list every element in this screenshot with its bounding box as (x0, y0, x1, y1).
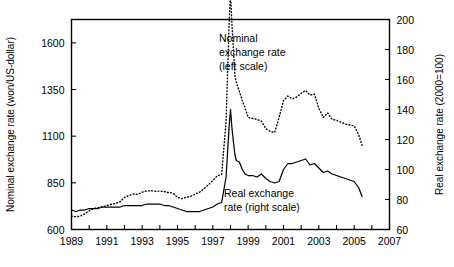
nominal-annotation-line2: exchange rate (219, 46, 286, 58)
y-right-tick-label: 200 (397, 14, 415, 26)
real-annotation-line2: rate (right scale) (224, 201, 300, 213)
y-left-tick-label: 1350 (41, 84, 65, 96)
x-tick-label: 1997 (201, 235, 225, 247)
y-left-tick-label: 1100 (42, 130, 65, 142)
y-right-tick-label: 160 (397, 74, 415, 86)
x-tick-label: 2005 (342, 235, 366, 247)
nominal-annotation-line3: (left scale) (219, 60, 267, 72)
y-right-tick-label: 80 (397, 194, 409, 206)
y-right-tick-label: 60 (397, 224, 409, 236)
x-tick-label: 1989 (60, 235, 84, 247)
y-right-tick-label: 100 (397, 164, 415, 176)
chart-figure: 1989199119931995199719992001200320052007… (0, 0, 454, 267)
exchange-rate-line-chart: 1989199119931995199719992001200320052007… (0, 0, 454, 267)
x-tick-label: 1999 (236, 235, 260, 247)
y-axis-right-title: Real exchange rate (2000=100) (434, 54, 445, 195)
y-right-tick-label: 140 (397, 104, 415, 116)
x-tick-label: 1991 (95, 235, 119, 247)
x-tick-label: 2001 (272, 235, 296, 247)
y-left-tick-label: 1600 (41, 37, 65, 49)
y-left-tick-label: 600 (47, 224, 65, 236)
nominal-annotation-line1: Nominal (219, 32, 258, 44)
real-annotation-line1: Real exchange (224, 187, 294, 199)
y-left-tick-label: 850 (47, 177, 65, 189)
y-axis-left-title: Nominal exchange rate (won/US-dollar) (5, 37, 16, 212)
x-tick-label: 2003 (307, 235, 331, 247)
x-tick-label: 1995 (166, 235, 190, 247)
x-tick-label: 1993 (130, 235, 154, 247)
y-right-tick-label: 120 (397, 134, 415, 146)
x-tick-label: 2007 (378, 235, 402, 247)
y-right-tick-label: 180 (397, 44, 415, 56)
